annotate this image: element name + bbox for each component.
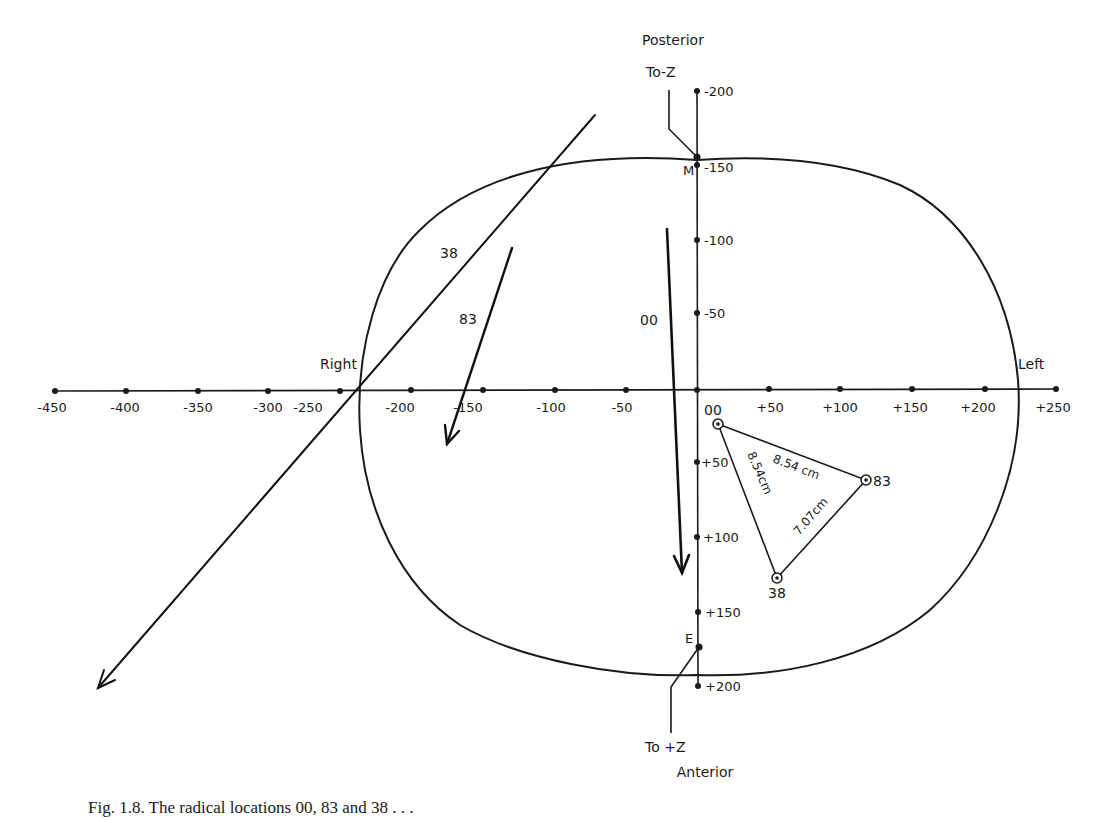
- body-outline: [359, 158, 1018, 675]
- y-tick-label: +100: [703, 530, 739, 545]
- figure-caption: Fig. 1.8. The radical locations 00, 83 a…: [88, 798, 1088, 818]
- distance-triangle: [718, 424, 866, 578]
- x-tick-label: -350: [183, 400, 213, 415]
- to-minus-z-label: To-Z: [645, 64, 676, 80]
- anterior-label: Anterior: [677, 764, 734, 780]
- x-tick-label: +200: [960, 400, 996, 415]
- y-tick-label: +150: [705, 605, 741, 620]
- point-m-label: M: [683, 163, 694, 178]
- vertex-00-label: 00: [704, 402, 722, 418]
- arrow-00-label: 00: [640, 312, 658, 328]
- x-tick-label: -250: [293, 400, 323, 415]
- distance-83-38: 7.07cm: [791, 495, 831, 538]
- to-plus-z-label: To +Z: [644, 739, 686, 755]
- y-tick-label: +200: [705, 679, 741, 694]
- arrow-00: [667, 229, 689, 573]
- distance-00-38: 8.54cm: [744, 450, 775, 497]
- arrow-38-label: 38: [440, 245, 458, 261]
- distance-00-83: 8.54 cm: [771, 452, 822, 483]
- x-tick-label: +250: [1035, 400, 1071, 415]
- x-tick-label: -400: [110, 400, 140, 415]
- x-tick-label: +50: [756, 400, 783, 415]
- x-tick-label: +100: [822, 400, 858, 415]
- x-tick-label: -300: [253, 400, 283, 415]
- point-e-label: E: [685, 631, 693, 646]
- y-tick-label: +50: [701, 455, 728, 470]
- right-label: Right: [320, 356, 357, 372]
- x-tick-label: +150: [892, 400, 928, 415]
- posterior-label: Posterior: [642, 32, 704, 48]
- y-tick-label: -150: [704, 160, 734, 175]
- arrow-83-label: 83: [459, 311, 477, 327]
- vertex-38-label: 38: [768, 585, 786, 601]
- x-tick-label: -200: [385, 400, 415, 415]
- x-tick-label: -100: [536, 400, 566, 415]
- x-tick-label: -450: [37, 400, 67, 415]
- x-tick-labels: -450 -400 -350 -300 -250 -200 -150 -100 …: [37, 400, 1071, 415]
- left-label: Left: [1018, 356, 1045, 372]
- to-minus-z-leader: [669, 90, 697, 157]
- y-tick-label: -50: [704, 306, 725, 321]
- y-tick-label: -200: [704, 84, 734, 99]
- x-tick-label: -50: [611, 400, 632, 415]
- to-plus-z-leader: [671, 647, 699, 733]
- vertex-83-label: 83: [873, 473, 891, 489]
- arrow-38: [98, 115, 595, 688]
- y-tick-label: -100: [704, 233, 734, 248]
